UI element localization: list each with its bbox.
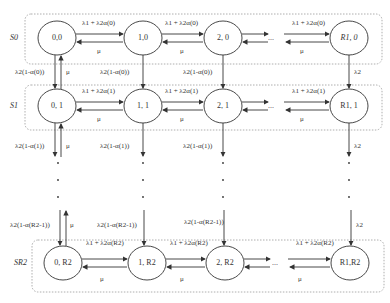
node-label: 2, 0 bbox=[198, 34, 248, 42]
vertical-rate-label: λ2 bbox=[354, 143, 361, 150]
backward-rate-label: μ bbox=[180, 116, 184, 123]
row-label-s0: S0 bbox=[10, 33, 18, 42]
row-label-s1: S1 bbox=[10, 101, 18, 110]
vertical-rate-label: λ2(1-α(R2-1)) bbox=[97, 222, 137, 229]
vertical-rate-label: λ2(1-α(0)) bbox=[100, 69, 129, 76]
forward-rate-label: λ1 + λ2α(1) bbox=[292, 88, 325, 95]
backward-rate-label: μ bbox=[97, 48, 101, 55]
up-rate-label: μ bbox=[70, 222, 74, 229]
vertical-rate-label: λ2(1-α(1)) bbox=[100, 143, 129, 150]
backward-rate-label: μ bbox=[100, 276, 104, 283]
node-label: R1, 1 bbox=[324, 102, 374, 110]
backward-rate-label: μ bbox=[180, 276, 184, 283]
node-label: 0, 1 bbox=[32, 102, 82, 110]
vertical-rate-label: λ2(1-α(0)) bbox=[183, 69, 212, 76]
forward-rate-label: λ1 + λ2α(R2) bbox=[170, 240, 208, 247]
forward-rate-label: λ1 + λ2α(0) bbox=[292, 20, 325, 27]
backward-rate-label: μ bbox=[180, 48, 184, 55]
vertical-rate-label: λ2(1-α(R2-1)) bbox=[184, 219, 224, 226]
node-label: 2, 1 bbox=[198, 102, 248, 110]
ellipsis: ... bbox=[272, 259, 278, 267]
backward-rate-label: μ bbox=[300, 48, 304, 55]
ellipsis: ... bbox=[268, 102, 274, 110]
backward-rate-label: μ bbox=[300, 116, 304, 123]
node-label: 0,0 bbox=[32, 34, 82, 42]
node-label: 0, R2 bbox=[38, 259, 88, 267]
node-label: 2, R2 bbox=[200, 259, 250, 267]
vertical-rate-label: λ2(1-α(R2-1)) bbox=[10, 222, 50, 229]
forward-rate-label: λ1 + λ2α(R2) bbox=[296, 240, 334, 247]
vertical-rate-label: λ2(1-α(1)) bbox=[183, 143, 212, 150]
row-label-sr2: SR2 bbox=[14, 258, 27, 267]
backward-rate-label: μ bbox=[298, 276, 302, 283]
up-rate-label: μ bbox=[66, 143, 70, 150]
node-label: R1,R2 bbox=[325, 259, 375, 267]
forward-rate-label: λ1 + λ2α(R2) bbox=[86, 240, 124, 247]
backward-rate-label: μ bbox=[97, 116, 101, 123]
forward-rate-label: λ1 + λ2α(0) bbox=[82, 20, 115, 27]
node-label: R1, 0 bbox=[324, 34, 374, 42]
vertical-rate-label: λ2 bbox=[356, 222, 363, 229]
vertical-rate-label: λ2(1-α(0)) bbox=[15, 69, 44, 76]
forward-rate-label: λ1 + λ2α(0) bbox=[165, 20, 198, 27]
node-label: 1,0 bbox=[118, 34, 168, 42]
vertical-rate-label: λ2(1-α(1)) bbox=[15, 143, 44, 150]
up-rate-label: μ bbox=[66, 69, 70, 76]
forward-rate-label: λ1 + λ2α(1) bbox=[165, 88, 198, 95]
forward-rate-label: λ1 + λ2α(1) bbox=[82, 88, 115, 95]
node-label: 1, R2 bbox=[122, 259, 172, 267]
ellipsis: ... bbox=[268, 34, 274, 42]
vertical-rate-label: λ2 bbox=[354, 69, 361, 76]
node-label: 1, 1 bbox=[118, 102, 168, 110]
